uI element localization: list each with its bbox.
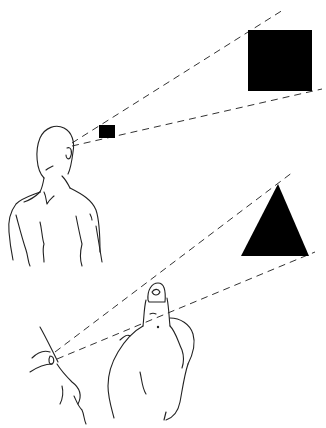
far-large-square [248,30,312,91]
perception-illustration [0,0,326,428]
thumb-mark [157,326,159,328]
far-triangle [241,184,309,256]
upper-sight-line [55,172,293,352]
eye-profile-icon [30,327,86,424]
thumb-icon [108,283,194,420]
person-from-behind-icon [9,126,102,266]
lower-sight-line [57,252,315,359]
near-small-square [99,125,115,138]
